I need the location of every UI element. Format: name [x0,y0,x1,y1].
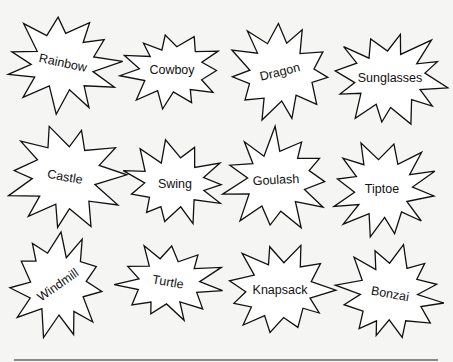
word-burst-cowboy: Cowboy [120,35,218,109]
word-burst-windmill: Windmill [10,232,102,338]
burst-word: Cowboy [149,63,195,77]
word-burst-sunglasses: Sunglasses [335,34,448,124]
word-burst-castle: Castle [9,126,127,227]
burst-word: Knapsack [253,283,309,297]
burst-grid: RainbowCowboyDragonSunglassesCastleSwing… [8,17,448,337]
burst-word: Sunglasses [358,71,423,85]
word-burst-swing: Swing [123,140,221,224]
burst-word: Tiptoe [365,182,399,196]
word-burst-bonzai: Bonzai [335,245,444,338]
word-burst-goulash: Goulash [223,126,325,228]
burst-word: Swing [158,177,192,191]
burst-word: Goulash [252,172,299,188]
word-burst-sheet: RainbowCowboyDragonSunglassesCastleSwing… [0,0,453,362]
word-burst-turtle: Turtle [114,246,222,321]
word-burst-knapsack: Knapsack [230,245,336,332]
word-burst-rainbow: Rainbow [8,17,123,114]
word-burst-tiptoe: Tiptoe [334,143,435,237]
word-burst-dragon: Dragon [232,23,328,120]
